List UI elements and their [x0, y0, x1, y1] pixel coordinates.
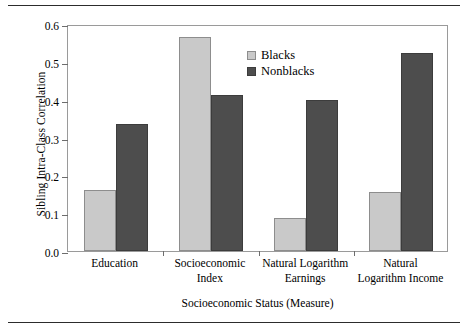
y-tick-mark [62, 253, 68, 254]
bar-blacks-2 [274, 218, 306, 251]
bar-nonblacks-2 [306, 100, 338, 251]
bar-blacks-0 [84, 190, 116, 251]
y-tick-label: 0.2 [45, 171, 59, 183]
y-tick-label: 0.3 [45, 134, 59, 146]
legend-item-nonblacks: Nonblacks [247, 64, 314, 79]
figure: Sibling Intra-Class Correlation 0.00.10.… [0, 0, 468, 333]
y-tick-label: 0.4 [45, 96, 59, 108]
y-tick-mark [62, 102, 68, 103]
bar-blacks-1 [179, 37, 211, 251]
y-tick-mark [62, 140, 68, 141]
bottom-divider-rule [8, 322, 460, 323]
top-divider-rule [8, 5, 460, 6]
x-category-label-line1: Natural Logarithm [262, 257, 348, 269]
x-axis-title: Socioeconomic Status (Measure) [67, 297, 448, 309]
bar-nonblacks-0 [116, 124, 148, 251]
x-category-label: SocioeconomicIndex [156, 256, 263, 286]
legend-label-nonblacks: Nonblacks [261, 64, 314, 79]
legend-label-blacks: Blacks [261, 48, 295, 63]
x-category-label-line1: Natural [383, 257, 417, 269]
plot-area: 0.00.10.20.30.40.50.6 Blacks Nonblacks [67, 25, 448, 252]
x-category-label-line2: Logarithm Income [347, 271, 454, 286]
x-category-label-line2: Earnings [252, 271, 359, 286]
y-tick-label: 0.0 [45, 247, 59, 259]
x-category-label: Education [61, 256, 168, 271]
y-tick-label: 0.5 [45, 58, 59, 70]
y-tick-label: 0.1 [45, 209, 59, 221]
y-tick-mark [62, 215, 68, 216]
y-tick-mark [62, 177, 68, 178]
y-tick-mark [62, 64, 68, 65]
legend: Blacks Nonblacks [247, 48, 314, 80]
x-category-label: NaturalLogarithm Income [347, 256, 454, 286]
y-tick-mark [62, 26, 68, 27]
x-category-label-line2: Index [156, 271, 263, 286]
bar-nonblacks-1 [211, 95, 243, 251]
bar-nonblacks-3 [401, 53, 433, 251]
legend-item-blacks: Blacks [247, 48, 314, 63]
bar-blacks-3 [369, 192, 401, 251]
x-category-label-line1: Education [91, 257, 138, 269]
legend-swatch-blacks [247, 51, 256, 60]
legend-swatch-nonblacks [247, 67, 256, 76]
x-category-label-line1: Socioeconomic [174, 257, 245, 269]
y-tick-label: 0.6 [45, 20, 59, 32]
x-category-label: Natural LogarithmEarnings [252, 256, 359, 286]
